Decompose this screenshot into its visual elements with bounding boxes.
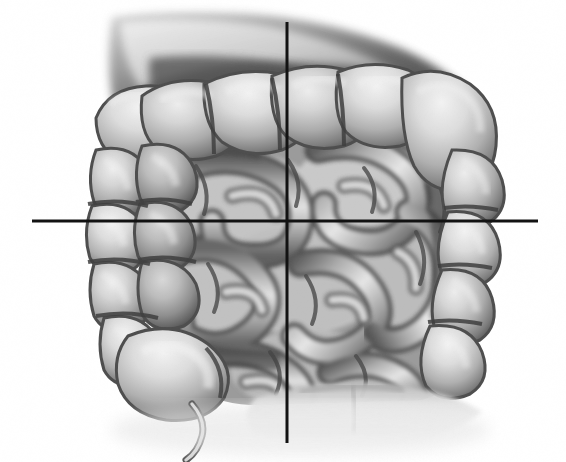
intestines-illustration xyxy=(0,0,566,462)
illustration-canvas: Abdominal intestines — large intestine (… xyxy=(0,0,566,462)
